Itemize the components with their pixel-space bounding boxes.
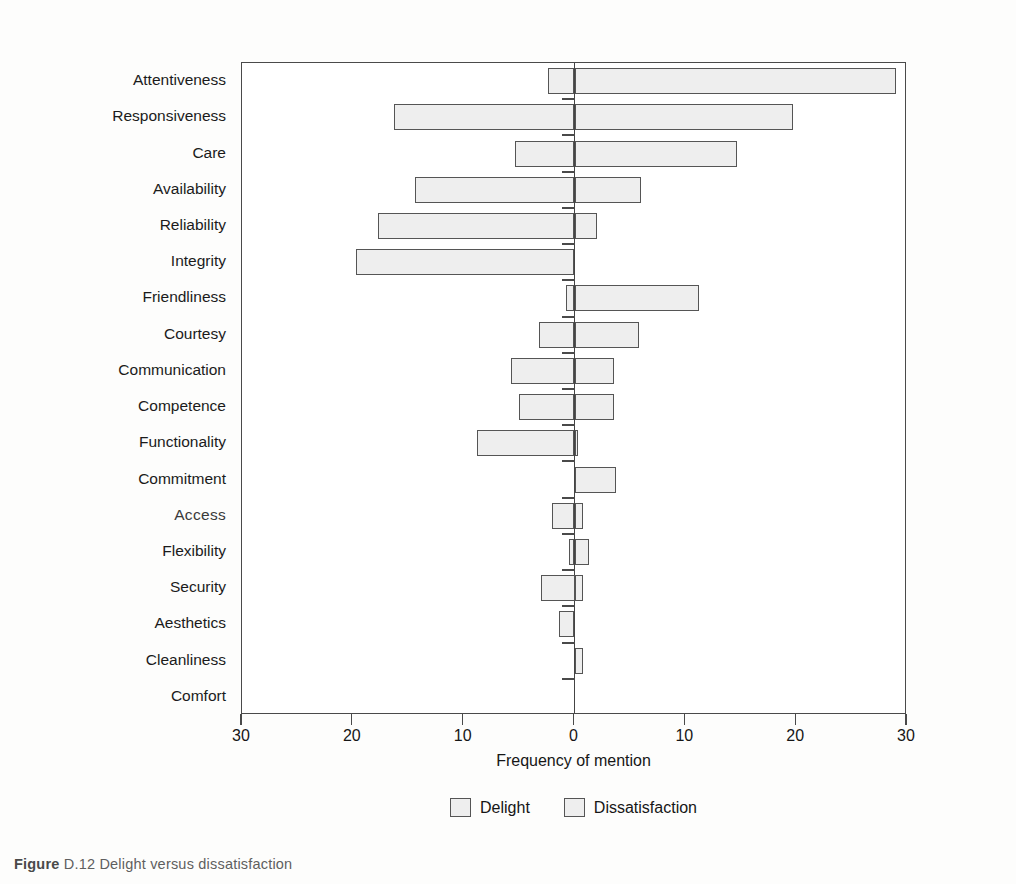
legend-swatch-delight: [450, 798, 471, 817]
bar-delight: [575, 104, 793, 130]
x-tick-label: 20: [786, 727, 804, 745]
bar-delight: [575, 648, 584, 674]
category-label: Commitment: [138, 471, 226, 487]
row-tick: [562, 533, 575, 535]
bar-dissatisfaction: [541, 575, 574, 601]
x-tick-label: 10: [675, 727, 693, 745]
bar-dissatisfaction: [356, 249, 574, 275]
x-tick-label: 30: [232, 727, 250, 745]
category-label: Integrity: [171, 253, 226, 269]
category-label: Functionality: [139, 434, 226, 450]
bar-delight: [575, 322, 639, 348]
bar-dissatisfaction: [519, 394, 574, 420]
chart-legend: Delight Dissatisfaction: [241, 798, 906, 817]
legend-entry-delight[interactable]: Delight: [450, 798, 530, 817]
row-tick: [562, 98, 575, 100]
legend-label-dissatisfaction: Dissatisfaction: [594, 799, 697, 817]
figure-caption: Figure D.12 Delight versus dissatisfacti…: [14, 856, 292, 872]
row-tick: [562, 424, 575, 426]
legend-swatch-dissatisfaction: [564, 798, 585, 817]
row-tick: [562, 569, 575, 571]
x-tick: [573, 714, 574, 725]
bar-dissatisfaction: [511, 358, 574, 384]
x-tick: [462, 714, 463, 725]
bar-dissatisfaction: [539, 322, 574, 348]
bar-delight: [575, 141, 738, 167]
bar-delight: [575, 539, 589, 565]
category-label: Attentiveness: [133, 72, 226, 88]
bar-delight: [575, 358, 615, 384]
category-label: Reliability: [160, 217, 226, 233]
x-tick: [795, 714, 796, 725]
bar-delight: [575, 285, 699, 311]
row-tick: [562, 279, 575, 281]
caption-prefix: Figure: [14, 856, 60, 872]
category-label: Courtesy: [164, 326, 226, 342]
x-tick: [905, 714, 906, 725]
row-tick: [562, 243, 575, 245]
bar-dissatisfaction: [477, 430, 575, 456]
category-label: Friendliness: [142, 289, 226, 305]
bar-dissatisfaction: [548, 68, 575, 94]
row-tick: [562, 605, 575, 607]
category-axis-labels: AttentivenessResponsivenessCareAvailabil…: [0, 62, 236, 714]
category-label: Availability: [153, 181, 226, 197]
bar-delight: [575, 394, 615, 420]
bar-dissatisfaction: [566, 285, 575, 311]
bar-delight: [575, 430, 578, 456]
row-tick: [562, 642, 575, 644]
row-tick: [562, 678, 575, 680]
category-label: Security: [170, 579, 226, 595]
category-label: Flexibility: [162, 543, 226, 559]
category-label: Responsiveness: [112, 108, 226, 124]
bar-delight: [575, 503, 584, 529]
x-tick: [684, 714, 685, 725]
row-tick: [562, 171, 575, 173]
category-label: Competence: [138, 398, 226, 414]
bar-dissatisfaction: [415, 177, 575, 203]
bar-delight: [575, 467, 616, 493]
category-label: Communication: [118, 362, 226, 378]
legend-entry-dissatisfaction[interactable]: Dissatisfaction: [564, 798, 697, 817]
bar-delight: [575, 177, 642, 203]
bar-dissatisfaction: [552, 503, 574, 529]
category-label: Comfort: [171, 688, 226, 704]
figure-panel: AttentivenessResponsivenessCareAvailabil…: [0, 0, 1016, 884]
row-tick: [562, 497, 575, 499]
row-tick: [562, 134, 575, 136]
row-tick: [562, 207, 575, 209]
x-tick-label: 10: [454, 727, 472, 745]
caption-text: D.12 Delight versus dissatisfaction: [64, 856, 293, 872]
category-label: Care: [192, 145, 226, 161]
x-tick-label: 30: [897, 727, 915, 745]
category-label: Access: [174, 507, 226, 523]
bar-dissatisfaction: [515, 141, 575, 167]
bar-dissatisfaction: [394, 104, 575, 130]
plot-inner: [242, 63, 905, 713]
x-tick-label: 20: [343, 727, 361, 745]
category-label: Aesthetics: [154, 615, 226, 631]
plot-area: [241, 62, 906, 714]
x-tick-label: 0: [569, 727, 578, 745]
bar-delight: [575, 575, 584, 601]
row-tick: [562, 352, 575, 354]
bar-delight: [575, 213, 597, 239]
row-tick: [562, 388, 575, 390]
x-tick: [351, 714, 352, 725]
bar-delight: [575, 68, 896, 94]
bar-dissatisfaction: [559, 611, 575, 637]
row-tick: [562, 460, 575, 462]
x-axis-title: Frequency of mention: [241, 752, 906, 770]
legend-label-delight: Delight: [480, 799, 530, 817]
row-tick: [562, 316, 575, 318]
category-label: Cleanliness: [146, 652, 226, 668]
x-tick: [240, 714, 241, 725]
bar-dissatisfaction: [378, 213, 574, 239]
